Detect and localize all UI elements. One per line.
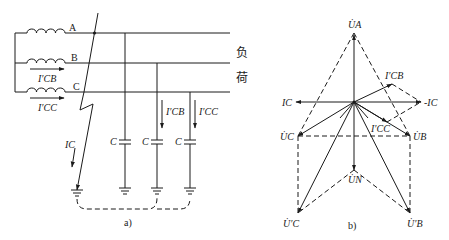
capacitor-branch-a [119,33,131,194]
arrow-ic-fault [72,148,75,167]
dashed-icc-parallelogram [387,102,421,122]
junction-dot [93,31,96,34]
label-uc: U̇C [280,131,294,142]
label-icb-branch: I′CB [165,106,184,117]
dashed-ua-uc [298,33,354,136]
load-label-char-1: 负 [236,46,248,60]
label-phase-c: C [73,81,80,92]
origin-dot [353,101,356,104]
label-icc-source: I′CC [37,102,57,113]
coil-phase-c [27,88,65,92]
label-un: U̇N [348,174,363,185]
panel-b-phasor-diagram: U̇A IC -IC I′CB I′CC U̇C U̇B U̇N U̇′C U̇… [280,19,438,232]
label-neg-ic: -IC [424,97,438,108]
label-ic-fault: IC [64,139,75,150]
caption-a: a) [124,217,132,229]
label-uc-prime: U̇′C [283,218,299,229]
load-label-char-2: 荷 [236,71,248,85]
figure-canvas: A B C I′CB I′CC IC [0,0,449,240]
label-icc: I′CC [370,123,390,134]
panel-a-circuit: A B C I′CB I′CC IC [15,13,248,229]
dashed-un-ucprime [298,170,354,213]
label-icb: I′CB [384,70,403,81]
capacitor-branch-c [184,92,196,194]
dashed-icb-parallelogram [392,84,421,102]
label-phase-a: A [69,22,77,33]
label-ua: U̇A [348,19,362,30]
fault-path [77,13,98,190]
label-phase-b: B [71,52,78,63]
coil-phase-a [27,29,65,33]
label-capacitor-a: C [110,136,117,147]
label-icb-source: I′CB [37,73,56,84]
label-capacitor-b: C [142,136,149,147]
label-ic: IC [281,97,292,108]
dashed-ua-ub [354,33,410,136]
ground-symbol-fault [71,190,83,196]
label-ub: U̇B [413,131,426,142]
dashed-un-ubprime [354,170,410,213]
capacitor-branch-b [151,63,163,194]
caption-b: b) [348,220,356,232]
coil-phase-b [27,59,65,63]
label-ub-prime: U̇′B [407,218,423,229]
label-icc-branch: I′CC [198,106,218,117]
label-capacitor-c: C [175,136,182,147]
earth-return-path [77,198,190,209]
